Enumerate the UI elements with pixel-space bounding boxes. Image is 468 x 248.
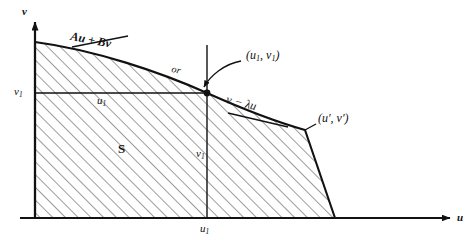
point-uprime-vprime-label: (u′, v′) [318, 112, 349, 124]
point-u1-v1-mid: , v [260, 48, 271, 62]
v1-axis-tick-label: v1 [14, 86, 23, 99]
u-axis-label: u [457, 212, 463, 223]
u1-inner-label: u1 [97, 95, 106, 108]
point-u1-v1-label: (u1, v1) [246, 49, 279, 63]
point-u1-v1-arrow [204, 61, 241, 87]
v1-axis-tick-sub: 1 [19, 90, 23, 99]
u1-inner-sub: 1 [103, 99, 107, 108]
region-s-fill [35, 42, 335, 218]
point-u1-v1-open: (u [246, 48, 256, 62]
u1-axis-tick-sub: 1 [206, 227, 210, 236]
v-axis-label: v [22, 6, 27, 17]
v1-inner-label: v1 [196, 148, 205, 161]
region-s-label: S [118, 142, 125, 155]
point-u1-v1-close: ) [275, 48, 279, 62]
point-u1-v1-marker [204, 90, 211, 97]
u1-axis-tick-label: u1 [200, 223, 209, 236]
point-uprime-vprime-leader [305, 124, 316, 130]
v1-inner-sub: 1 [201, 152, 205, 161]
